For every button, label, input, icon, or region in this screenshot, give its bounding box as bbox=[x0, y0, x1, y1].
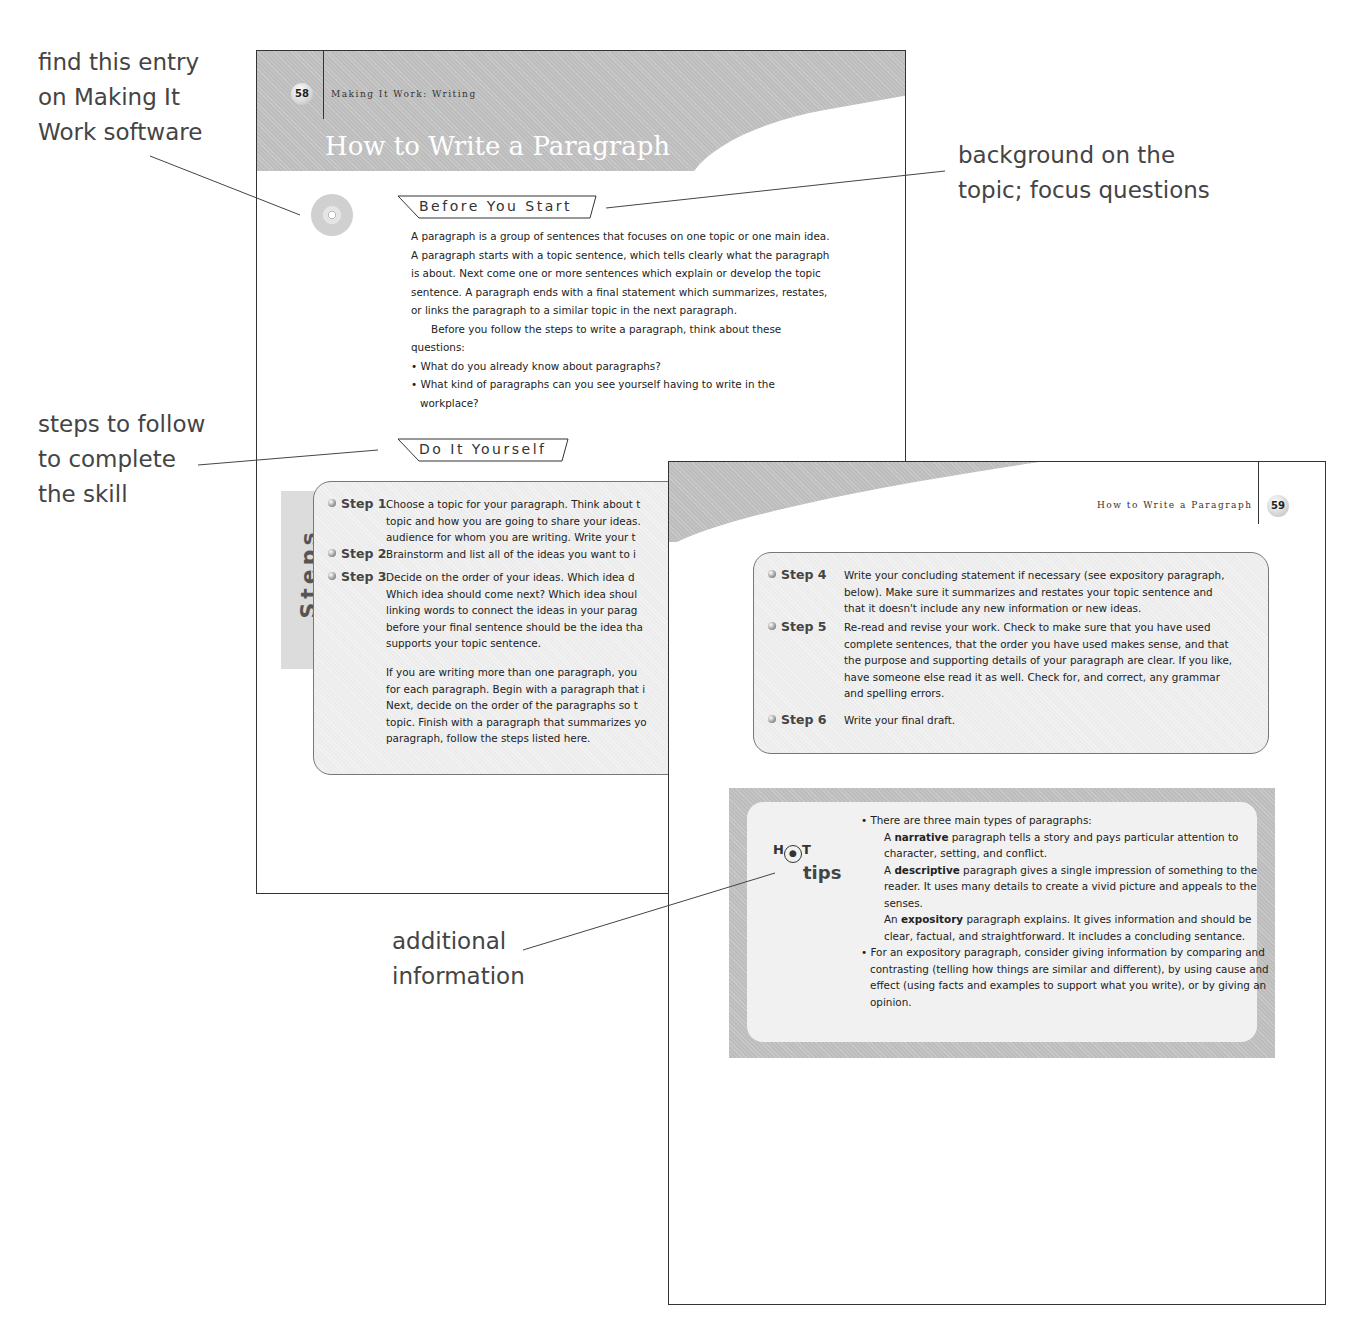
page-number-badge: 58 bbox=[291, 83, 313, 105]
intro-text: A paragraph is a group of sentences that… bbox=[411, 227, 831, 412]
before-you-start-heading: Before You Start bbox=[397, 195, 597, 219]
hot-tips-panel: H●T tips • There are three main types of… bbox=[747, 802, 1257, 1042]
intro-paragraph: Before you follow the steps to write a p… bbox=[411, 320, 831, 357]
callout-steps: steps to follow to complete the skill bbox=[38, 407, 205, 512]
tips-label: tips bbox=[803, 862, 841, 883]
hot-tips-text: • There are three main types of paragrap… bbox=[861, 812, 1271, 1010]
tip-bullet: • For an expository paragraph, consider … bbox=[861, 944, 1271, 1010]
tip-bullet: • There are three main types of paragrap… bbox=[861, 812, 1271, 829]
step-label: Step 6 bbox=[768, 712, 826, 729]
steps-tab: Steps bbox=[281, 491, 315, 669]
running-head: Making It Work: Writing bbox=[331, 89, 477, 99]
step-text: Choose a topic for your paragraph. Think… bbox=[386, 496, 641, 546]
tip-descriptive: A descriptive paragraph gives a single i… bbox=[861, 862, 1271, 912]
header-divider bbox=[323, 51, 324, 119]
step-label: Step 3 bbox=[328, 569, 386, 586]
page-title: How to Write a Paragraph bbox=[325, 131, 670, 161]
steps-note: If you are writing more than one paragra… bbox=[386, 664, 647, 747]
hot-label-h: H bbox=[773, 842, 784, 857]
hot-tips-box: H●T tips • There are three main types of… bbox=[729, 788, 1275, 1058]
cd-rom-icon bbox=[311, 194, 353, 236]
header-divider bbox=[1258, 462, 1259, 524]
callout-software: find this entry on Making It Work softwa… bbox=[38, 45, 202, 150]
intro-paragraph: A paragraph is a group of sentences that… bbox=[411, 227, 831, 320]
step-text: Write your concluding statement if neces… bbox=[844, 567, 1225, 617]
callout-background: background on the topic; focus questions bbox=[958, 138, 1210, 208]
step-label: Step 2 bbox=[328, 546, 386, 563]
before-you-start-label: Before You Start bbox=[419, 198, 572, 214]
step-text: Write your final draft. bbox=[844, 712, 955, 729]
question-item: • What do you already know about paragra… bbox=[411, 357, 831, 376]
target-icon: ● bbox=[784, 845, 802, 863]
step-label: Step 1 bbox=[328, 496, 386, 513]
page-59: How to Write a Paragraph 59 Step 4 Write… bbox=[668, 461, 1326, 1305]
step-label: Step 5 bbox=[768, 619, 826, 636]
step-text: Re-read and revise your work. Check to m… bbox=[844, 619, 1232, 702]
callout-additional-information: additional information bbox=[392, 924, 525, 994]
page-number-badge: 59 bbox=[1267, 495, 1289, 517]
hot-label-t: T bbox=[802, 842, 811, 857]
do-it-yourself-heading: Do It Yourself bbox=[397, 438, 569, 462]
steps-box: Step 4 Write your concluding statement i… bbox=[753, 552, 1269, 754]
step-label: Step 4 bbox=[768, 567, 826, 584]
step-text: Decide on the order of your ideas. Which… bbox=[386, 569, 643, 652]
tip-narrative: A narrative paragraph tells a story and … bbox=[861, 829, 1271, 862]
step-text: Brainstorm and list all of the ideas you… bbox=[386, 546, 636, 563]
question-item: • What kind of paragraphs can you see yo… bbox=[411, 375, 780, 412]
running-head: How to Write a Paragraph bbox=[1097, 500, 1252, 510]
do-it-yourself-label: Do It Yourself bbox=[419, 441, 546, 457]
hot-tips-logo: H●T bbox=[773, 842, 811, 863]
tip-expository: An expository paragraph explains. It giv… bbox=[861, 911, 1271, 944]
